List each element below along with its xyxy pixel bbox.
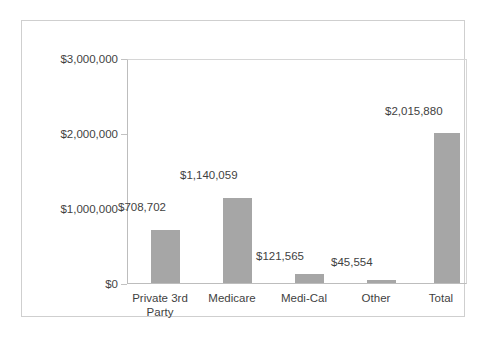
- bar-medicare: [223, 198, 252, 283]
- data-label-other: $45,554: [331, 256, 373, 268]
- y-tick-label: $0: [105, 278, 118, 290]
- data-label-medicare: $1,140,059: [180, 169, 238, 181]
- y-tick-label: $3,000,000: [60, 53, 118, 65]
- chart-frame: $3,000,000 $2,000,000 $1,000,000 $0 $708…: [21, 20, 465, 317]
- data-label-medi-cal: $121,565: [256, 250, 304, 262]
- bar-private-3rd-party: [151, 230, 180, 283]
- data-label-private-3rd-party: $708,702: [118, 201, 166, 213]
- bar-total: [434, 133, 460, 283]
- y-tick-label: $2,000,000: [60, 128, 118, 140]
- x-category-label-total: Total: [398, 291, 484, 305]
- y-tick-mark: [121, 284, 127, 285]
- bar-medi-cal: [295, 274, 324, 283]
- y-tick-label: $1,000,000: [60, 203, 118, 215]
- y-axis: $3,000,000 $2,000,000 $1,000,000 $0: [22, 21, 118, 340]
- data-label-total: $2,015,880: [385, 105, 443, 117]
- bar-other: [367, 280, 396, 283]
